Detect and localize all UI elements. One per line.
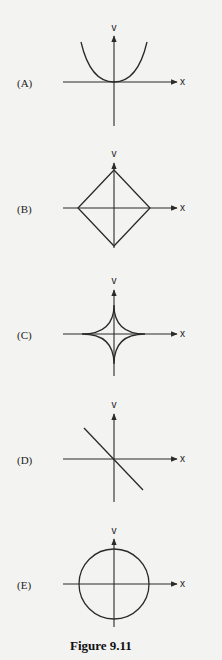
panel-a-graph [63, 36, 177, 126]
panel-a-label: (A) [17, 77, 32, 89]
panel-b-v-axis-label: v [109, 149, 119, 159]
panel-d-v-axis-label: v [109, 400, 119, 410]
panel-c-graph [63, 290, 177, 376]
panel-e-v-axis-label: v [109, 526, 119, 536]
panel-d-x-axis-label: x [180, 454, 185, 464]
panel-b-x-axis-label: x [180, 203, 185, 213]
panel-e-label: (E) [17, 579, 31, 591]
panel-a-x-axis-label: x [180, 77, 185, 87]
panel-d-graph [63, 414, 177, 502]
panel-c-x-axis-label: x [180, 329, 185, 339]
panel-e-graph [63, 539, 177, 627]
panel-c-label: (C) [17, 329, 32, 341]
panel-b-graph [63, 163, 177, 248]
figure-caption: Figure 9.11 [70, 639, 132, 653]
panel-c-v-axis-label: v [109, 276, 119, 286]
panel-a-v-axis-label: v [109, 23, 119, 33]
panel-e-x-axis-label: x [180, 579, 185, 589]
panel-b-label: (B) [17, 203, 32, 215]
figure-9-11-diagram [0, 0, 222, 660]
panel-d-label: (D) [17, 454, 32, 466]
